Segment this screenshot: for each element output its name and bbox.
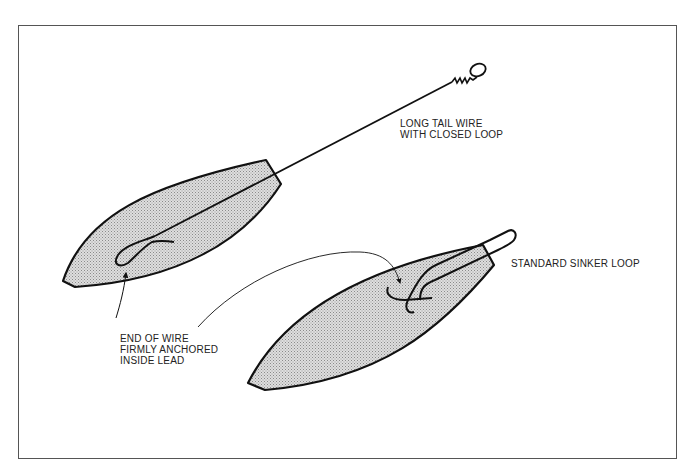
diagram-canvas: LONG TAIL WIRE WITH CLOSED LOOP STANDARD…: [0, 0, 693, 469]
label-long-tail-wire: LONG TAIL WIRE WITH CLOSED LOOP: [400, 118, 503, 140]
label-long-tail-line1: LONG TAIL WIRE: [400, 118, 503, 129]
label-end-of-wire: END OF WIRE FIRMLY ANCHORED INSIDE LEAD: [120, 333, 218, 366]
twisted-wire-coil: [452, 77, 477, 83]
label-long-tail-line2: WITH CLOSED LOOP: [400, 129, 503, 140]
sinker-body-left: [63, 160, 281, 287]
sinker-body-right: [248, 245, 494, 390]
sinker-long-tail: [63, 61, 488, 287]
label-standard-sinker-loop: STANDARD SINKER LOOP: [511, 258, 640, 269]
long-tail-wire: [155, 82, 452, 236]
diagram-illustration: [0, 0, 693, 469]
label-anchored-line3: INSIDE LEAD: [120, 355, 218, 366]
sinker-standard: [248, 230, 516, 390]
closed-loop: [468, 61, 488, 79]
label-anchored-line1: END OF WIRE: [120, 333, 218, 344]
label-standard-loop-line1: STANDARD SINKER LOOP: [511, 258, 640, 269]
label-anchored-line2: FIRMLY ANCHORED: [120, 344, 218, 355]
